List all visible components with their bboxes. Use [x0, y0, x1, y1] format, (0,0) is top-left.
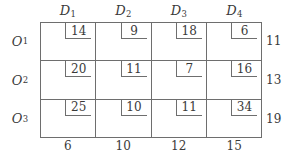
- column-header-d2-label: D: [115, 3, 125, 18]
- supply-o3: 19: [266, 99, 304, 138]
- cost-grid: 14 9 18 6 20 11 7 16 25 10 11 34: [40, 22, 262, 138]
- cost-o2-d1: 20: [65, 61, 91, 77]
- cell-o2-d2: 11: [96, 61, 151, 98]
- column-header-d3: D3: [151, 1, 207, 21]
- cost-o1-d3: 18: [176, 23, 202, 39]
- column-header-d4: D4: [207, 1, 263, 21]
- cell-o3-d2: 10: [96, 100, 151, 137]
- supply-o2: 13: [266, 61, 304, 100]
- cell-o3-d3: 11: [152, 100, 207, 137]
- row-header-o1: O1: [2, 22, 38, 61]
- cell-o3-d4: 34: [207, 100, 261, 137]
- row-header-o3: O3: [2, 99, 38, 138]
- row-header-column: O1 O2 O3: [2, 22, 38, 138]
- column-header-d2: D2: [96, 1, 152, 21]
- cost-o1-d4: 6: [231, 23, 257, 39]
- cost-o2-d3: 7: [176, 61, 202, 77]
- column-header-d4-label: D: [226, 3, 236, 18]
- supply-o1: 11: [266, 22, 304, 61]
- demand-row: 6 10 12 15: [40, 139, 262, 154]
- table-row: 14 9 18 6: [41, 23, 261, 61]
- cost-o2-d4: 16: [231, 61, 257, 77]
- cell-o1-d3: 18: [152, 23, 207, 60]
- demand-d3: 12: [151, 139, 207, 154]
- demand-d2: 10: [96, 139, 152, 154]
- row-header-o3-subscript: 3: [23, 114, 28, 124]
- column-header-row: D1 D2 D3 D4: [40, 1, 262, 21]
- cell-o1-d4: 6: [207, 23, 261, 60]
- cell-o2-d1: 20: [41, 61, 96, 98]
- cost-o1-d2: 9: [121, 23, 147, 39]
- cell-o2-d3: 7: [152, 61, 207, 98]
- table-row: 25 10 11 34: [41, 100, 261, 137]
- row-header-o2-label: O: [12, 73, 23, 88]
- cost-o3-d4: 34: [231, 100, 257, 116]
- cell-o1-d2: 9: [96, 23, 151, 60]
- row-header-o1-label: O: [12, 34, 23, 49]
- column-header-d1: D1: [40, 1, 96, 21]
- cost-o2-d2: 11: [121, 61, 147, 77]
- column-header-d3-label: D: [171, 3, 181, 18]
- row-header-o2-subscript: 2: [23, 75, 28, 85]
- cost-o3-d2: 10: [121, 100, 147, 116]
- transportation-tableau: D1 D2 D3 D4 O1 O2 O3 14 9 18 6 20 11 7 1…: [0, 0, 307, 155]
- cell-o2-d4: 16: [207, 61, 261, 98]
- row-header-o2: O2: [2, 61, 38, 100]
- column-header-d3-subscript: 3: [181, 9, 186, 19]
- table-row: 20 11 7 16: [41, 61, 261, 99]
- demand-d4: 15: [207, 139, 263, 154]
- column-header-d1-subscript: 1: [70, 9, 75, 19]
- column-header-d1-label: D: [60, 3, 70, 18]
- demand-d1: 6: [40, 139, 96, 154]
- cell-o1-d1: 14: [41, 23, 96, 60]
- cell-o3-d1: 25: [41, 100, 96, 137]
- row-header-o3-label: O: [12, 111, 23, 126]
- column-header-d2-subscript: 2: [126, 9, 131, 19]
- column-header-d4-subscript: 4: [237, 9, 242, 19]
- supply-column: 11 13 19: [266, 22, 304, 138]
- cost-o3-d3: 11: [176, 100, 202, 116]
- cost-o3-d1: 25: [65, 100, 91, 116]
- row-header-o1-subscript: 1: [23, 36, 28, 46]
- cost-o1-d1: 14: [65, 23, 91, 39]
